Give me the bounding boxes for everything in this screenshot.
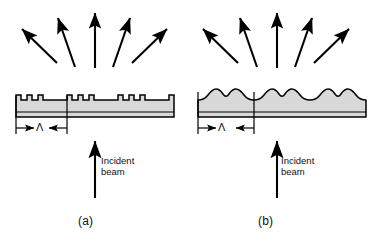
diffracted-order-arrow bbox=[113, 18, 130, 67]
diffracted-orders-b bbox=[203, 13, 349, 68]
diffracted-order-arrow bbox=[132, 29, 167, 63]
grating-diffraction-figure: Λ Λ Incident beam Incident beam (a) (b) bbox=[0, 0, 371, 242]
incident-beam-label-a: Incident beam bbox=[101, 155, 134, 177]
diffracted-order-arrow bbox=[295, 18, 312, 67]
panel-caption-a: (a) bbox=[78, 214, 93, 228]
incident-beam-label-a-line2: beam bbox=[101, 166, 134, 177]
diffracted-orders-a bbox=[22, 13, 167, 68]
grating-profile-b bbox=[198, 89, 366, 117]
diffracted-order-arrow bbox=[58, 18, 75, 67]
period-label-b: Λ bbox=[218, 121, 225, 133]
diffracted-order-arrow bbox=[314, 29, 349, 63]
panel-a bbox=[16, 13, 174, 198]
incident-beam-label-b: Incident beam bbox=[281, 155, 314, 177]
incident-beam-label-b-line1: Incident bbox=[281, 155, 314, 166]
panel-caption-b: (b) bbox=[258, 214, 273, 228]
period-label-a: Λ bbox=[36, 121, 43, 133]
diffracted-order-arrow bbox=[240, 18, 257, 67]
incident-beam-label-b-line2: beam bbox=[281, 166, 314, 177]
figure-canvas bbox=[0, 0, 371, 242]
diffracted-order-arrow bbox=[203, 29, 238, 63]
incident-beam-label-a-line1: Incident bbox=[101, 155, 134, 166]
grating-profile-a bbox=[16, 95, 174, 117]
diffracted-order-arrow bbox=[22, 29, 57, 63]
